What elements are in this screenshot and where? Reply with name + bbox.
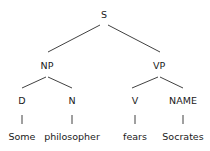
tree-edges [0, 0, 210, 151]
edge-s-vp [108, 25, 160, 52]
node-v: V [132, 96, 139, 106]
leaf-fears: fears [123, 132, 147, 142]
node-vp: VP [153, 61, 165, 71]
leaf-socrates: Socrates [162, 132, 203, 142]
node-n: N [68, 96, 75, 106]
edge-np-d [22, 77, 46, 88]
node-name: NAME [169, 96, 197, 106]
edge-s-np [48, 25, 100, 52]
node-s: S [101, 10, 107, 20]
edge-vp-v [132, 77, 158, 88]
edge-np-n [48, 77, 72, 88]
node-np: NP [41, 61, 54, 71]
leaf-philosopher: philosopher [44, 132, 100, 142]
node-d: D [18, 96, 25, 106]
leaf-some: Some [9, 132, 36, 142]
edge-vp-name [160, 77, 183, 88]
